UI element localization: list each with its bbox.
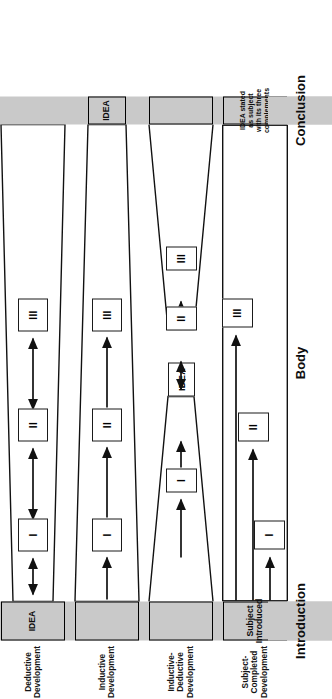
label-conclusion: Conclusion (268, 96, 332, 124)
row-inductive-development: Inductive Development IDEA (74, 0, 140, 699)
label-introduction: Introduction (268, 601, 332, 640)
diagram-canvas: Deductive Development IDEA (0, 0, 332, 699)
row-inductive-deductive-development: Inductive-Deductive Development IDEA (148, 0, 214, 699)
arrows-inductive-deductive (173, 259, 189, 559)
box-deductive-3: III (18, 298, 48, 331)
row-deductive-development: Deductive Development IDEA (0, 0, 66, 699)
inductive-deductive-conclusion-block (149, 96, 213, 124)
box-subject-completed-3: III (222, 298, 253, 327)
row-title-inductive: Inductive Development (74, 641, 140, 699)
box-deductive-2: II (18, 408, 48, 441)
figure-stage: Deductive Development IDEA (0, 0, 332, 699)
section-label-row: Introduction Body Conclusion (268, 0, 332, 699)
box-inductive-deductive-2: II (166, 306, 197, 330)
label-body: Body (268, 124, 332, 601)
box-inductive-deductive-1: I (166, 468, 197, 492)
box-inductive-1: I (92, 518, 122, 551)
arrows-inductive (99, 291, 115, 601)
box-deductive-1: I (18, 518, 48, 551)
box-inductive-2: II (92, 408, 122, 441)
row-title-deductive: Deductive Development (0, 641, 66, 699)
deductive-idea-block: IDEA (1, 601, 65, 640)
inductive-deductive-intro-block (149, 601, 213, 640)
row-title-inductive-deductive: Inductive-Deductive Development (148, 641, 214, 699)
inductive-idea-block: IDEA (88, 96, 126, 124)
box-inductive-deductive-3: III (166, 246, 197, 270)
box-subject-completed-2: II (238, 412, 269, 441)
box-inductive-3: III (92, 298, 122, 331)
inductive-intro-block (75, 601, 139, 640)
